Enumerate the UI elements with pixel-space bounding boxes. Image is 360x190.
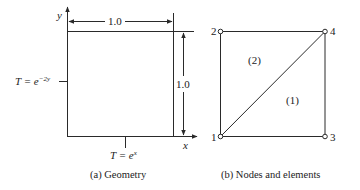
node-2-label: 2 bbox=[211, 26, 217, 37]
left-boundary-condition: T = e−2y bbox=[15, 76, 50, 87]
domain-square bbox=[68, 32, 174, 137]
bottom-boundary-condition: T = ex bbox=[110, 150, 137, 161]
geometry-caption: (a) Geometry bbox=[90, 170, 146, 181]
bottom-bc-base: T = e bbox=[110, 149, 134, 161]
left-bc-exponent: −2y bbox=[39, 75, 50, 83]
mesh-panel bbox=[218, 29, 327, 139]
node-3-label: 3 bbox=[330, 132, 336, 143]
y-axis-label: y bbox=[57, 10, 62, 21]
node-2-marker bbox=[218, 29, 223, 34]
node-3-marker bbox=[323, 134, 328, 139]
left-bc-base: T = e bbox=[15, 75, 39, 87]
element-diagonal bbox=[221, 32, 326, 137]
element-2-label: (2) bbox=[248, 55, 261, 66]
height-dimension-label: 1.0 bbox=[176, 78, 190, 91]
width-dimension-label: 1.0 bbox=[107, 16, 123, 27]
node-4-label: 4 bbox=[330, 26, 336, 37]
diagram-canvas bbox=[0, 0, 360, 190]
element-1-label: (1) bbox=[286, 95, 299, 106]
node-4-marker bbox=[323, 29, 328, 34]
bottom-bc-exponent: x bbox=[134, 149, 137, 157]
node-1-marker bbox=[218, 134, 223, 139]
node-1-label: 1 bbox=[211, 132, 217, 143]
x-axis-label: x bbox=[183, 140, 188, 151]
mesh-caption: (b) Nodes and elements bbox=[221, 170, 320, 181]
